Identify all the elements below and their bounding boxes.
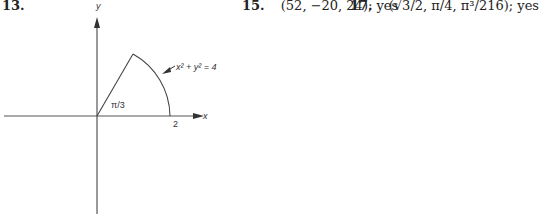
- curve-label: x² + y² = 4: [175, 62, 217, 72]
- arc-circle: [133, 54, 170, 116]
- x-axis-label: x: [202, 111, 208, 121]
- y-axis-arrow-icon: [94, 17, 100, 28]
- label-pointer-arrow-icon: [162, 67, 171, 74]
- x-intercept-label: 2: [173, 119, 178, 129]
- y-axis-label: y: [95, 1, 101, 11]
- angle-label: π/3: [111, 100, 125, 110]
